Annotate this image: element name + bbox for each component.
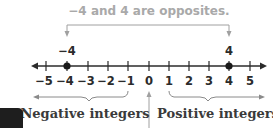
point-neg4 xyxy=(63,62,70,69)
tick-label: −4 xyxy=(56,74,74,88)
arrow-up-icon xyxy=(147,91,152,97)
opposites-bracket xyxy=(65,25,232,37)
tick-label: −5 xyxy=(35,74,53,88)
point-4 xyxy=(225,62,232,69)
tick-label: −2 xyxy=(97,74,115,88)
tick-label: 5 xyxy=(246,74,254,88)
tick-label: −3 xyxy=(77,74,95,88)
opposites-caption: −4 and 4 are opposites. xyxy=(68,4,229,18)
tick-label: −1 xyxy=(117,74,135,88)
point-label-4: 4 xyxy=(225,44,233,58)
arrow-down-icon xyxy=(65,31,70,37)
tick-label: 3 xyxy=(205,74,213,88)
tick-label: 0 xyxy=(145,74,153,88)
arrow-left-icon xyxy=(31,63,38,70)
arrow-down-icon xyxy=(227,31,232,37)
arrow-right-icon xyxy=(260,63,267,70)
tick-label: 4 xyxy=(225,74,233,88)
tick-labels: −5 −4 −3 −2 −1 0 1 2 3 4 5 xyxy=(35,74,254,88)
negative-brace xyxy=(33,91,128,101)
point-label-neg4: −4 xyxy=(58,44,76,58)
positive-brace xyxy=(169,91,265,101)
number-line-diagram: −4 and 4 are opposites. −4 4 −5 −4 −3 −2… xyxy=(0,0,273,128)
arrow-left-icon xyxy=(33,95,39,100)
dark-tab-fragment xyxy=(0,108,23,128)
arrow-right-icon xyxy=(259,95,265,100)
positive-integers-label: Positive integers xyxy=(157,106,273,121)
tick-label: 2 xyxy=(185,74,193,88)
tick-label: 1 xyxy=(165,74,173,88)
negative-integers-label: Negative integers xyxy=(20,106,149,121)
